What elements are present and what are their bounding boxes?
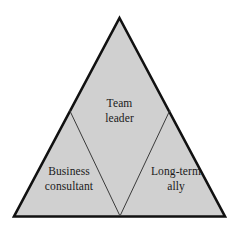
triangle-outline-shape xyxy=(14,18,225,217)
triangle-diagram: Team leader Business consultant Long-ter… xyxy=(0,0,239,235)
triangle-graphic xyxy=(0,0,239,235)
